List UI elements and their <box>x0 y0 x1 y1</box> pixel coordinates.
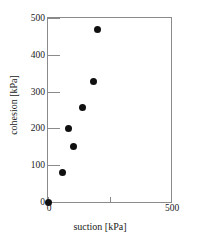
y-axis-tick-label: 200 <box>31 125 45 135</box>
scatter-chart-figure: 01002003004005000500 suction [kPa] cohes… <box>0 0 200 247</box>
x-axis-tick-label: 500 <box>165 204 179 214</box>
y-axis-tick-label: 300 <box>31 88 45 98</box>
data-point <box>90 78 97 85</box>
plot-area: 01002003004005000500 <box>47 17 172 203</box>
y-axis-tick: 400 <box>48 55 60 56</box>
data-point <box>79 104 86 111</box>
data-point <box>59 169 66 176</box>
x-axis-tick: 500 <box>171 197 172 202</box>
y-axis-tick-label: 400 <box>31 51 45 61</box>
y-axis-tick-label: 500 <box>31 14 45 24</box>
data-point <box>65 125 72 132</box>
data-point <box>45 199 52 206</box>
data-point <box>70 143 77 150</box>
y-axis-tick: 200 <box>48 128 60 129</box>
y-axis-tick: 500 <box>48 18 60 19</box>
x-axis-label: suction [kPa] <box>0 222 200 232</box>
y-axis-tick: 300 <box>48 92 60 93</box>
y-axis-label: cohesion [kPa] <box>9 50 19 160</box>
x-axis-tick <box>110 197 111 202</box>
y-axis-tick: 100 <box>48 165 60 166</box>
data-point <box>94 26 101 33</box>
y-axis-tick-label: 100 <box>31 161 45 171</box>
